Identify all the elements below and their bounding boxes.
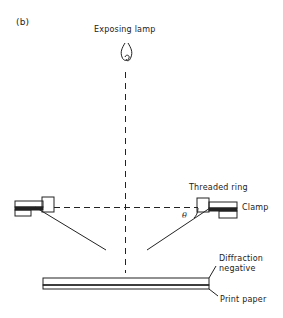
clamp-label: Clamp bbox=[242, 203, 269, 212]
paper-leader bbox=[209, 289, 218, 296]
diagram-canvas: (b) Exposing lamp Threaded ring Clamp θ … bbox=[0, 0, 283, 318]
right-support-arm bbox=[147, 208, 210, 250]
negative-leader bbox=[209, 266, 216, 278]
print-paper-label: Print paper bbox=[220, 295, 266, 304]
threaded-ring-label: Threaded ring bbox=[189, 183, 248, 192]
diffraction-negative-label-2: negative bbox=[219, 264, 256, 273]
lamp-label: Exposing lamp bbox=[94, 25, 155, 34]
right-clamp bbox=[197, 198, 237, 218]
diffraction-negative-label-1: Diffraction bbox=[219, 254, 263, 263]
left-clamp bbox=[15, 197, 54, 216]
lamp-icon bbox=[121, 43, 132, 61]
plate-stack bbox=[43, 278, 209, 289]
panel-label: (b) bbox=[16, 18, 29, 27]
left-support-arm bbox=[35, 207, 106, 250]
theta-label: θ bbox=[182, 211, 187, 220]
